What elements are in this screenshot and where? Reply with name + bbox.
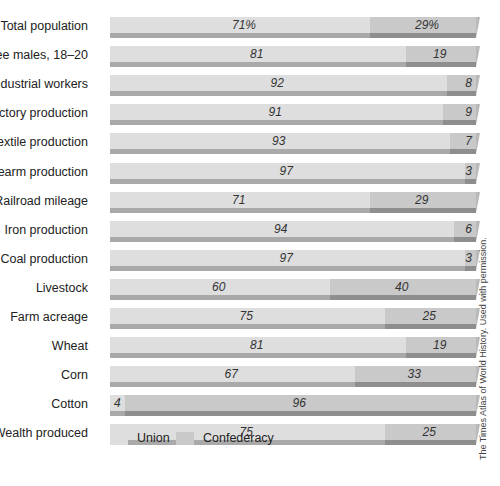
category-label: Corn xyxy=(61,368,88,382)
category-label: Textile production xyxy=(0,135,88,149)
bar-row-coal-production: Coal production973 xyxy=(0,250,480,274)
union-value-label: 71 xyxy=(232,193,245,207)
confederacy-value-label: 25 xyxy=(423,425,436,439)
bar-row-total-population: Total population71%29% xyxy=(0,17,480,41)
legend-swatch-confederacy xyxy=(176,432,194,445)
bar-endcap xyxy=(476,104,480,125)
bar-row-wheat: Wheat8119 xyxy=(0,337,480,361)
confederacy-value-label: 19 xyxy=(433,338,446,352)
stacked-bar: 946 xyxy=(110,221,476,243)
category-label: Cotton xyxy=(51,397,88,411)
union-value-label: 4 xyxy=(114,396,121,410)
bar-row-iron-production: Iron production946 xyxy=(0,221,480,245)
bar-row-free-males-18-20: Free males, 18–208119 xyxy=(0,46,480,70)
stacked-bar: 6733 xyxy=(110,366,476,388)
stacked-bar: 6040 xyxy=(110,279,476,301)
union-value-label: 75 xyxy=(240,309,253,323)
category-label: Factory production xyxy=(0,106,88,120)
stacked-bar: 8119 xyxy=(110,46,476,68)
category-label: Firearm production xyxy=(0,165,88,179)
category-label: Industrial workers xyxy=(0,77,88,91)
stacked-bar: 7129 xyxy=(110,192,476,214)
bar-row-factory-production: Factory production919 xyxy=(0,104,480,128)
stacked-bar: 71%29% xyxy=(110,17,476,39)
stacked-bar: 973 xyxy=(110,250,476,272)
bar-endcap xyxy=(476,133,480,154)
stacked-bar: 496 xyxy=(110,395,476,417)
union-value-label: 81 xyxy=(250,338,263,352)
stacked-bar: 8119 xyxy=(110,337,476,359)
bar-endcap xyxy=(476,46,480,67)
union-value-label: 71% xyxy=(232,18,256,32)
legend-label-union: Union xyxy=(137,431,170,445)
bar-row-livestock: Livestock6040 xyxy=(0,279,480,303)
union-value-label: 93 xyxy=(272,134,285,148)
confederacy-value-label: 9 xyxy=(465,105,472,119)
comparison-bar-chart: Total population71%29%Free males, 18–208… xyxy=(0,0,500,486)
union-value-label: 60 xyxy=(212,280,225,294)
category-label: Iron production xyxy=(5,223,88,237)
confederacy-segment xyxy=(450,133,476,155)
stacked-bar: 937 xyxy=(110,133,476,155)
category-label: Wealth produced xyxy=(0,426,88,440)
category-label: Farm acreage xyxy=(10,310,88,324)
bar-row-textile-production: Textile production937 xyxy=(0,133,480,157)
confederacy-value-label: 6 xyxy=(465,222,472,236)
stacked-bar: 7525 xyxy=(110,308,476,330)
stacked-bar: 973 xyxy=(110,163,476,185)
stacked-bar: 928 xyxy=(110,75,476,97)
union-value-label: 67 xyxy=(225,367,238,381)
category-label: Free males, 18–20 xyxy=(0,48,88,62)
union-value-label: 97 xyxy=(280,164,293,178)
bar-endcap xyxy=(476,163,480,184)
bar-endcap xyxy=(476,75,480,96)
confederacy-value-label: 29 xyxy=(415,193,428,207)
confederacy-value-label: 25 xyxy=(423,309,436,323)
union-value-label: 94 xyxy=(274,222,287,236)
bar-row-industrial-workers: Industrial workers928 xyxy=(0,75,480,99)
category-label: Livestock xyxy=(36,281,88,295)
legend-label-confederacy: Confederacy xyxy=(203,431,274,445)
bar-row-farm-acreage: Farm acreage7525 xyxy=(0,308,480,332)
stacked-bar: 919 xyxy=(110,104,476,126)
union-value-label: 81 xyxy=(250,47,263,61)
bar-row-cotton: Cotton496 xyxy=(0,395,480,419)
confederacy-value-label: 33 xyxy=(408,367,421,381)
confederacy-value-label: 8 xyxy=(465,76,472,90)
category-label: Railroad mileage xyxy=(0,194,88,208)
union-value-label: 92 xyxy=(271,76,284,90)
confederacy-value-label: 96 xyxy=(293,396,306,410)
credit-text: The Times Atlas of World History. Used w… xyxy=(478,237,488,460)
bar-endcap xyxy=(476,17,480,38)
bar-row-corn: Corn6733 xyxy=(0,366,480,390)
confederacy-value-label: 3 xyxy=(465,251,472,265)
bar-row-railroad-mileage: Railroad mileage7129 xyxy=(0,192,480,216)
confederacy-value-label: 3 xyxy=(465,164,472,178)
confederacy-value-label: 19 xyxy=(433,47,446,61)
confederacy-value-label: 7 xyxy=(465,134,472,148)
bar-row-firearm-production: Firearm production973 xyxy=(0,163,480,187)
bar-endcap xyxy=(476,192,480,213)
category-label: Total population xyxy=(0,19,88,33)
union-value-label: 97 xyxy=(280,251,293,265)
confederacy-value-label: 40 xyxy=(395,280,408,294)
confederacy-value-label: 29% xyxy=(415,18,439,32)
legend-swatch-union xyxy=(110,432,128,445)
category-label: Coal production xyxy=(0,252,88,266)
category-label: Wheat xyxy=(52,339,88,353)
union-value-label: 91 xyxy=(269,105,282,119)
